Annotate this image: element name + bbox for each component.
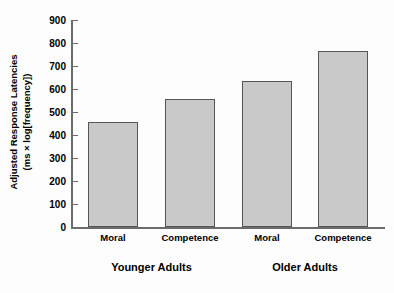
y-axis-tick-label: 0: [36, 222, 66, 233]
x-axis-category-label: Competence: [314, 232, 371, 243]
y-axis-title-line-1: Adjusted Response Latencies: [8, 54, 21, 189]
y-axis-tick-mark: [73, 158, 78, 159]
x-axis-group-label: Older Adults: [272, 261, 338, 273]
x-axis-category-label: Moral: [254, 232, 279, 243]
y-axis-tick-mark: [73, 89, 78, 90]
plot-area: 0100200300400500600700800900: [71, 20, 385, 227]
y-axis-tick-label: 300: [36, 153, 66, 164]
y-axis-tick-label: 100: [36, 199, 66, 210]
x-axis-category-label: Competence: [161, 232, 218, 243]
y-axis-tick-mark: [73, 112, 78, 113]
y-axis-tick-label: 600: [36, 84, 66, 95]
chart-figure: Adjusted Response Latencies (ms × log[fr…: [0, 0, 394, 293]
bar: [318, 51, 368, 227]
x-axis-line: [71, 227, 385, 229]
bar: [88, 122, 138, 227]
y-axis-tick-label: 900: [36, 15, 66, 26]
y-axis-tick-mark: [73, 43, 78, 44]
y-axis-tick-label: 700: [36, 61, 66, 72]
y-axis-title: Adjusted Response Latencies (ms × log[fr…: [2, 16, 38, 228]
bar: [165, 99, 215, 227]
y-axis-tick-mark: [73, 20, 78, 21]
y-axis-tick-mark: [73, 204, 78, 205]
bar: [242, 81, 292, 227]
y-axis-tick-mark: [73, 181, 78, 182]
y-axis-tick-label: 400: [36, 130, 66, 141]
y-axis-line: [71, 20, 73, 227]
y-axis-title-line-2: (ms × log[frequency]): [20, 54, 33, 189]
y-axis-tick-label: 800: [36, 38, 66, 49]
y-axis-tick-label: 200: [36, 176, 66, 187]
y-axis-tick-mark: [73, 66, 78, 67]
x-axis-category-label: Moral: [100, 232, 125, 243]
y-axis-tick-mark: [73, 135, 78, 136]
y-axis-tick-mark: [73, 227, 78, 228]
x-axis-group-label: Younger Adults: [111, 261, 192, 273]
y-axis-tick-label: 500: [36, 107, 66, 118]
